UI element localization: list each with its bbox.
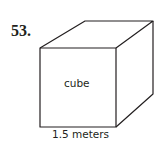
cube-side-face <box>116 21 153 127</box>
cube-label: cube <box>64 77 90 89</box>
edge-length-label: 1.5 meters <box>52 128 109 140</box>
cube-top-face <box>40 21 153 48</box>
cube-drawing <box>0 0 168 144</box>
